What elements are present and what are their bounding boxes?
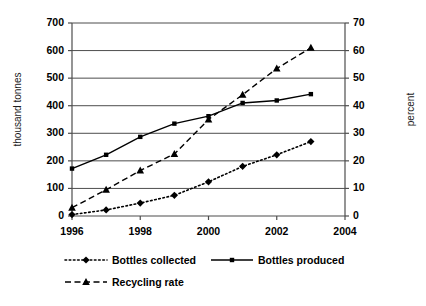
y-axis-left-tick-label: 700 bbox=[30, 16, 64, 28]
legend-label-recycling-rate: Recycling rate bbox=[112, 276, 184, 288]
gridlines bbox=[72, 23, 345, 188]
legend-row-secondary: Recycling rate bbox=[64, 276, 184, 288]
series-recycling-rate bbox=[68, 44, 314, 211]
y-axis-right-tick-label: 40 bbox=[353, 99, 387, 111]
y-axis-left-tick-label: 500 bbox=[30, 71, 64, 83]
series-bottles-collected bbox=[68, 138, 314, 218]
y-axis-left-tick-label: 200 bbox=[30, 154, 64, 166]
legend-item-recycling-rate: Recycling rate bbox=[64, 276, 184, 288]
legend-key-recycling-rate bbox=[64, 276, 108, 288]
legend-key-bottles-collected bbox=[64, 254, 108, 266]
y-axis-right-tick-label: 10 bbox=[353, 181, 387, 193]
legend-row-primary: Bottles collected Bottles produced bbox=[64, 254, 344, 266]
legend-item-bottles-produced: Bottles produced bbox=[210, 254, 344, 266]
y-axis-right-tick-label: 60 bbox=[353, 44, 387, 56]
y-axis-right-tick-label: 20 bbox=[353, 154, 387, 166]
x-axis-tick-label: 1996 bbox=[49, 225, 95, 237]
series-layer bbox=[68, 44, 314, 218]
legend-label-bottles-collected: Bottles collected bbox=[112, 254, 196, 266]
y-axis-left-title: thousand tonnes bbox=[12, 55, 23, 165]
legend-item-bottles-collected: Bottles collected bbox=[64, 254, 196, 266]
line-chart: thousand tonnes percent 0100200300400500… bbox=[0, 0, 426, 306]
y-axis-left-tick-label: 300 bbox=[30, 126, 64, 138]
y-axis-right-title: percent bbox=[405, 55, 416, 165]
y-axis-left-tick-label: 400 bbox=[30, 99, 64, 111]
y-axis-right-tick-label: 0 bbox=[353, 209, 387, 221]
series-bottles-produced bbox=[70, 92, 313, 171]
y-axis-right-tick-label: 30 bbox=[353, 126, 387, 138]
y-axis-right-tick-label: 70 bbox=[353, 16, 387, 28]
y-axis-left-tick-label: 600 bbox=[30, 44, 64, 56]
legend-label-bottles-produced: Bottles produced bbox=[258, 254, 344, 266]
y-axis-right-tick-label: 50 bbox=[353, 71, 387, 83]
legend-key-bottles-produced bbox=[210, 254, 254, 266]
x-axis-tick-label: 2000 bbox=[186, 225, 232, 237]
y-axis-left-tick-label: 100 bbox=[30, 181, 64, 193]
x-axis-tick-label: 2004 bbox=[322, 225, 368, 237]
y-axis-left-tick-label: 0 bbox=[30, 209, 64, 221]
x-axis-tick-label: 1998 bbox=[117, 225, 163, 237]
x-axis-tick-label: 2002 bbox=[254, 225, 300, 237]
